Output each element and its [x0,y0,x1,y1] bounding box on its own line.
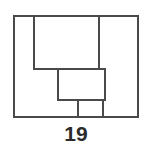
figure-container: 19 [0,0,152,152]
center-block [58,69,105,100]
outer-frame [14,16,138,117]
figure-number-label: 19 [0,122,152,146]
